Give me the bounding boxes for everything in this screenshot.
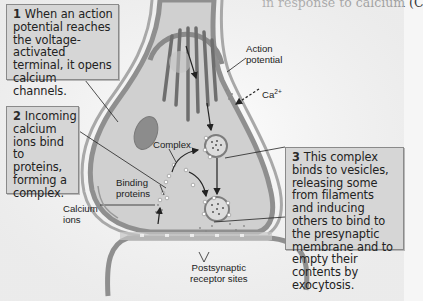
- label-postsynaptic-receptor-sites: Postsynaptic receptor sites: [190, 262, 248, 284]
- step-text: Incoming calcium ions bind to proteins, …: [13, 109, 77, 200]
- label-line: receptor sites: [190, 273, 248, 284]
- label-line: Postsynaptic: [190, 262, 248, 273]
- label-charge: 2+: [274, 88, 281, 95]
- callout-step-2: 2Incoming calcium ions bind to proteins,…: [6, 106, 79, 194]
- label-line: Action: [246, 43, 282, 54]
- faint-vesicle: [169, 51, 191, 73]
- label-complex: Complex: [153, 139, 191, 150]
- label-action-potential: Action potential: [246, 43, 282, 65]
- label-line: ions: [63, 214, 98, 225]
- label-symbol: Ca: [262, 89, 274, 100]
- label-line: Binding: [116, 177, 150, 188]
- label-binding-proteins: Binding proteins: [116, 177, 150, 199]
- label-calcium-ions: Calcium ions: [63, 203, 98, 225]
- callout-step-3: 3This complex binds to vesicles, releasi…: [285, 147, 404, 250]
- label-calcium-ion: Ca2+: [262, 86, 282, 100]
- label-line: proteins: [116, 188, 150, 199]
- label-line: potential: [246, 54, 282, 65]
- callout-step-1: 1When an action potential reaches the vo…: [6, 4, 119, 80]
- label-line: Calcium: [63, 203, 98, 214]
